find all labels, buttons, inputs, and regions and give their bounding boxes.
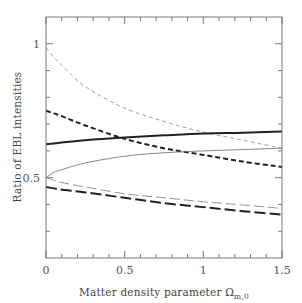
series-thick-longdash bbox=[46, 187, 282, 215]
tick-labels: 00.511.50.51 bbox=[23, 38, 291, 277]
series-thick-solid bbox=[46, 132, 282, 145]
series-thick-dashed bbox=[46, 111, 282, 167]
x-axis-label: Matter density parameter Ωm,0 bbox=[79, 286, 249, 301]
series-thin-longdash bbox=[46, 178, 282, 209]
y-tick-label: 0.5 bbox=[23, 172, 41, 185]
x-tick-label: 1 bbox=[200, 264, 207, 277]
data-series bbox=[46, 48, 282, 215]
y-axis-label: Ratio of EBL intensities bbox=[11, 72, 23, 203]
x-tick-label: 0 bbox=[43, 264, 50, 277]
axis-ticks bbox=[46, 17, 282, 258]
chart: 00.511.50.51 Matter density parameter Ωm… bbox=[0, 0, 302, 303]
x-tick-label: 1.5 bbox=[273, 264, 291, 277]
y-tick-label: 1 bbox=[33, 38, 40, 51]
x-tick-label: 0.5 bbox=[116, 264, 134, 277]
plot-frame bbox=[46, 17, 282, 258]
